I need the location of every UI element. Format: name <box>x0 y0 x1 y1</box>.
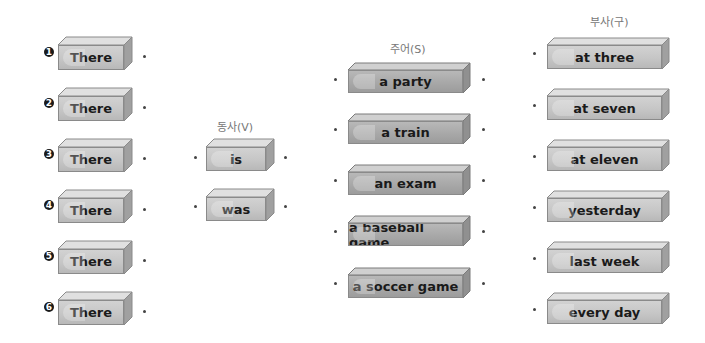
connector-dot[interactable] <box>194 205 197 208</box>
connector-dot[interactable] <box>284 156 287 159</box>
subject-heading: 주어(S) <box>390 40 426 56</box>
subject-label-an-exam: an exam <box>348 172 463 195</box>
number-badge-5: 5 <box>44 251 54 261</box>
connector-dot[interactable] <box>334 230 337 233</box>
subject-label-a-train: a train <box>348 121 463 144</box>
adverb-block-at-three[interactable]: at three <box>547 38 669 69</box>
connector-dot[interactable] <box>143 259 146 262</box>
verb-label-was: was <box>206 197 266 221</box>
connector-dot[interactable] <box>482 282 485 285</box>
number-badge-3: 3 <box>44 149 54 159</box>
there-label-5: There <box>58 249 124 274</box>
adverb-heading: 부사(구) <box>590 13 629 29</box>
number-badge-6: 6 <box>44 302 54 312</box>
adverb-block-at-eleven[interactable]: at eleven <box>547 140 669 171</box>
connector-dot[interactable] <box>482 179 485 182</box>
verb-block-is[interactable]: is <box>206 139 274 171</box>
adverb-block-yesterday[interactable]: yesterday <box>547 191 669 222</box>
subject-label-a-baseball-game: a baseball game <box>348 223 463 246</box>
subject-block-a-train[interactable]: a train <box>348 114 470 144</box>
adverb-label-yesterday: yesterday <box>547 198 662 222</box>
there-block-3[interactable]: There <box>58 139 132 172</box>
there-label-2: There <box>58 96 124 121</box>
connector-dot[interactable] <box>143 208 146 211</box>
adverb-label-at-seven: at seven <box>547 96 662 120</box>
there-label-1: There <box>58 45 124 70</box>
connector-dot[interactable] <box>334 179 337 182</box>
connector-dot[interactable] <box>533 104 536 107</box>
connector-dot[interactable] <box>194 156 197 159</box>
connector-dot[interactable] <box>284 205 287 208</box>
connector-dot[interactable] <box>334 128 337 131</box>
subject-label-a-party: a party <box>348 70 463 93</box>
adverb-block-last-week[interactable]: last week <box>547 242 669 273</box>
verb-block-was[interactable]: was <box>206 189 274 221</box>
connector-dot[interactable] <box>533 52 536 55</box>
there-label-4: There <box>58 198 124 223</box>
connector-dot[interactable] <box>143 106 146 109</box>
connector-dot[interactable] <box>143 310 146 313</box>
there-block-6[interactable]: There <box>58 292 132 325</box>
adverb-block-at-seven[interactable]: at seven <box>547 89 669 120</box>
connector-dot[interactable] <box>533 257 536 260</box>
connector-dot[interactable] <box>482 128 485 131</box>
there-block-5[interactable]: There <box>58 241 132 274</box>
connector-dot[interactable] <box>533 308 536 311</box>
connector-dot[interactable] <box>334 282 337 285</box>
there-block-2[interactable]: There <box>58 88 132 121</box>
connector-dot[interactable] <box>533 206 536 209</box>
there-label-3: There <box>58 147 124 172</box>
there-block-1[interactable]: There <box>58 37 132 70</box>
number-badge-2: 2 <box>44 98 54 108</box>
adverb-label-last-week: last week <box>547 249 662 273</box>
subject-block-a-party[interactable]: a party <box>348 63 470 93</box>
verb-heading: 동사(V) <box>217 118 253 134</box>
subject-block-an-exam[interactable]: an exam <box>348 165 470 195</box>
adverb-label-every-day: every day <box>547 300 662 324</box>
subject-label-a-soccer-game: a soccer game <box>348 275 463 298</box>
adverb-block-every-day[interactable]: every day <box>547 293 669 324</box>
connector-dot[interactable] <box>143 157 146 160</box>
there-label-6: There <box>58 300 124 325</box>
verb-label-is: is <box>206 147 266 171</box>
connector-dot[interactable] <box>334 78 337 81</box>
connector-dot[interactable] <box>533 155 536 158</box>
adverb-label-at-three: at three <box>547 45 662 69</box>
number-badge-4: 4 <box>44 200 54 210</box>
connector-dot[interactable] <box>482 230 485 233</box>
subject-block-a-soccer-game[interactable]: a soccer game <box>348 268 470 298</box>
number-badge-1: 1 <box>44 47 54 57</box>
adverb-label-at-eleven: at eleven <box>547 147 662 171</box>
there-block-4[interactable]: There <box>58 190 132 223</box>
connector-dot[interactable] <box>482 78 485 81</box>
subject-block-a-baseball-game[interactable]: a baseball game <box>348 216 470 246</box>
connector-dot[interactable] <box>143 55 146 58</box>
